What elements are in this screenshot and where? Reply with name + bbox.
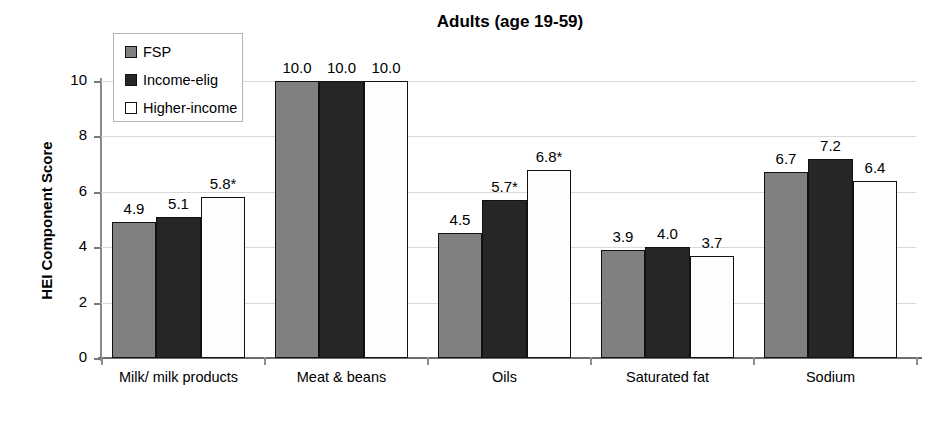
y-tick-mark xyxy=(94,192,101,194)
x-category-label: Oils xyxy=(492,369,517,385)
x-tick-mark xyxy=(753,357,755,365)
bar-chart: Adults (age 19-59) HEI Component Score 0… xyxy=(0,0,936,429)
y-tick-label: 10 xyxy=(43,71,87,88)
y-tick-label: 2 xyxy=(43,293,87,310)
bar xyxy=(438,233,483,358)
bar-value-label: 5.1 xyxy=(168,195,189,212)
bar-value-label: 3.7 xyxy=(702,234,723,251)
bar-value-label: 10.0 xyxy=(282,59,311,76)
bar xyxy=(482,200,527,358)
x-tick-mark xyxy=(916,357,918,365)
legend-swatch-icon xyxy=(125,74,137,86)
bar xyxy=(853,181,898,358)
y-tick-mark xyxy=(94,358,101,360)
bar-value-label: 6.7 xyxy=(776,150,797,167)
bar-value-label: 4.5 xyxy=(450,211,471,228)
bar xyxy=(527,170,572,358)
bar-value-label: 10.0 xyxy=(327,59,356,76)
bar xyxy=(275,81,320,358)
legend-item-higher: Higher-income xyxy=(125,101,237,116)
y-tick-mark xyxy=(94,247,101,249)
legend: FSPIncome-eligHigher-income xyxy=(113,33,243,122)
x-category-label: Sodium xyxy=(806,369,855,385)
x-category-label: Meat & beans xyxy=(297,369,386,385)
legend-item-fsp: FSP xyxy=(125,45,171,60)
bar xyxy=(764,172,809,358)
bar xyxy=(364,81,409,358)
legend-swatch-icon xyxy=(125,102,137,114)
bar xyxy=(690,256,735,358)
bar-value-label: 4.0 xyxy=(657,225,678,242)
bar xyxy=(201,197,246,358)
bar xyxy=(808,159,853,358)
bar-value-label: 5.7* xyxy=(491,178,518,195)
x-category-label: Milk/ milk products xyxy=(119,369,238,385)
bar xyxy=(601,250,646,358)
x-tick-mark xyxy=(264,357,266,365)
y-tick-mark xyxy=(94,136,101,138)
y-tick-mark xyxy=(94,303,101,305)
y-tick-mark xyxy=(94,81,101,83)
y-tick-label: 4 xyxy=(43,237,87,254)
legend-label: FSP xyxy=(143,45,171,60)
bar-value-label: 4.9 xyxy=(124,200,145,217)
x-tick-mark xyxy=(101,357,103,365)
legend-label: Income-elig xyxy=(143,73,218,88)
legend-label: Higher-income xyxy=(143,101,237,116)
legend-item-income: Income-elig xyxy=(125,73,218,88)
y-tick-label: 0 xyxy=(43,348,87,365)
bar xyxy=(156,217,201,358)
bar xyxy=(319,81,364,358)
x-tick-mark xyxy=(427,357,429,365)
bar-value-label: 10.0 xyxy=(371,59,400,76)
bar-value-label: 5.8* xyxy=(210,175,237,192)
gridline xyxy=(101,136,916,137)
bar-value-label: 6.8* xyxy=(536,148,563,165)
y-tick-label: 6 xyxy=(43,182,87,199)
x-tick-mark xyxy=(590,357,592,365)
bar xyxy=(112,222,157,358)
bar-value-label: 6.4 xyxy=(865,159,886,176)
y-tick-label: 8 xyxy=(43,126,87,143)
bar-value-label: 7.2 xyxy=(820,137,841,154)
chart-title: Adults (age 19-59) xyxy=(360,12,660,32)
legend-swatch-icon xyxy=(125,46,137,58)
x-category-label: Saturated fat xyxy=(626,369,709,385)
plot-area: 4.95.15.8*10.010.010.04.55.7*6.8*3.94.03… xyxy=(101,81,916,358)
bar-value-label: 3.9 xyxy=(613,228,634,245)
bar xyxy=(645,247,690,358)
